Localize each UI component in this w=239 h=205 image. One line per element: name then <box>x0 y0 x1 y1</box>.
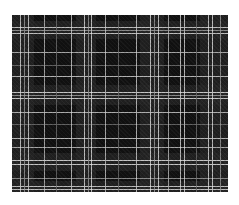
vertical-stripe <box>180 15 181 192</box>
vertical-stripe <box>150 15 151 192</box>
vertical-stripe <box>56 15 57 192</box>
vertical-stripe <box>158 15 159 192</box>
plaid-fabric <box>12 15 228 192</box>
vertical-stripe <box>20 15 21 192</box>
vertical-stripe <box>44 15 45 192</box>
vertical-stripe <box>154 15 155 192</box>
vertical-stripe <box>168 15 169 192</box>
vertical-stripe <box>105 15 106 192</box>
vertical-stripe <box>91 15 92 192</box>
vertical-stripe <box>28 15 29 192</box>
vertical-stripe <box>84 15 85 192</box>
vertical-stripe <box>184 15 185 192</box>
vertical-stripe <box>118 15 119 192</box>
vertical-stripe <box>24 15 25 192</box>
vertical-stripe <box>88 15 89 192</box>
vertical-stripe <box>136 15 137 192</box>
vertical-stripe <box>220 15 221 192</box>
vertical-stripe <box>208 15 209 192</box>
vertical-stripe <box>196 15 197 192</box>
vertical-stripe <box>212 15 213 192</box>
vertical-stripe <box>71 15 72 192</box>
